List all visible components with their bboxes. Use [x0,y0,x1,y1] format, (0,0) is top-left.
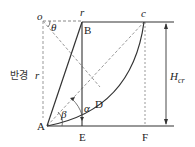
label-D: D [95,98,103,110]
label-beta: β [60,108,67,120]
label-o: o [37,10,43,22]
label-r-top: r [80,6,85,18]
label-radius-korean: 반경 [10,69,28,81]
label-radius-r: r [35,69,40,81]
alpha-arrowhead-bottom [80,117,84,121]
label-c: c [141,7,146,19]
slope-diagram: o r B c θ 반경 r D β α A E F Hcr [0,0,195,147]
alpha-arc [72,99,82,115]
label-E: E [79,131,86,143]
label-hcr: Hcr [169,70,186,85]
label-A: A [37,120,45,132]
alpha-arrowhead [70,97,75,101]
hcr-arrow-bottom [164,119,168,125]
label-hcr-sub: cr [178,76,186,85]
label-alpha: α [84,102,90,114]
theta-arc [48,21,50,27]
label-B: B [84,24,91,36]
label-F: F [142,131,148,143]
hcr-arrow-top [164,23,168,29]
label-theta: θ [51,21,57,33]
